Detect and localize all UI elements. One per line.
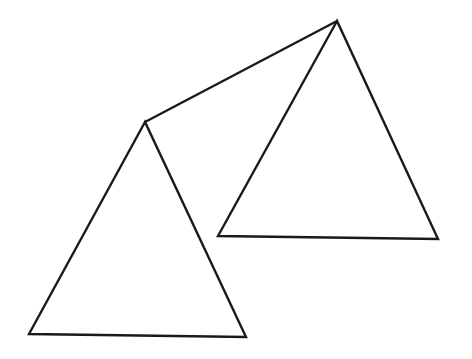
canvas-background <box>0 0 472 359</box>
figure-canvas <box>0 0 472 359</box>
triangles-drawing <box>0 0 472 359</box>
